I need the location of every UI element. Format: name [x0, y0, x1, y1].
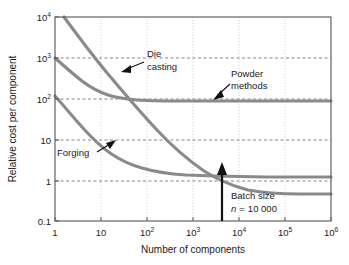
- die-casting-label-line1: Die: [147, 48, 161, 59]
- die-casting-label-line2: casting: [147, 61, 177, 72]
- ytick-label-1e2: 102: [37, 93, 52, 105]
- chart-svg: 1 10 102 103 104 105 106: [0, 0, 349, 265]
- ytick-label-1e4: 104: [37, 11, 52, 23]
- annotation-powder-methods: Powder methods: [213, 68, 268, 100]
- die-casting-arrowhead-icon: [121, 65, 131, 73]
- curve-powder-methods: [55, 58, 331, 101]
- y-axis-tick-labels: 104 103 102 10 1 0.1: [37, 11, 52, 227]
- batch-size-label: Batch size: [231, 190, 275, 201]
- forging-label: Forging: [57, 147, 89, 158]
- annotation-die-casting: Die casting: [121, 48, 177, 73]
- ytick-label-1e3: 103: [37, 52, 52, 64]
- xtick-label-1e4: 104: [232, 226, 247, 238]
- annotation-batch-size: Batch size n=10 000: [217, 162, 277, 221]
- xtick-label-1e3: 103: [186, 226, 201, 238]
- ytick-label-10: 10: [40, 135, 51, 146]
- powder-methods-label-line1: Powder: [231, 68, 263, 79]
- y-axis-ticks: [55, 17, 59, 221]
- xtick-label-1e2: 102: [140, 226, 155, 238]
- ytick-label-1: 1: [46, 176, 51, 187]
- cost-vs-batch-size-chart: 1 10 102 103 104 105 106: [0, 0, 349, 265]
- curve-die-casting: [64, 17, 331, 194]
- powder-methods-label-line2: methods: [231, 80, 268, 91]
- xtick-label-10: 10: [96, 227, 107, 238]
- x-axis-tick-labels: 1 10 102 103 104 105 106: [52, 226, 338, 238]
- batch-size-arrowhead-icon: [217, 162, 227, 175]
- ytick-label-0p1: 0.1: [38, 216, 51, 227]
- batch-size-value: n=10 000: [231, 203, 277, 214]
- xtick-label-1e5: 105: [278, 226, 293, 238]
- xtick-label-1: 1: [52, 227, 57, 238]
- x-axis-ticks: [55, 217, 331, 221]
- x-axis-title: Number of components: [141, 244, 245, 255]
- y-axis-title: Relative cost per component: [7, 55, 18, 182]
- forging-arrowhead-icon: [106, 140, 116, 149]
- xtick-label-1e6: 106: [324, 226, 339, 238]
